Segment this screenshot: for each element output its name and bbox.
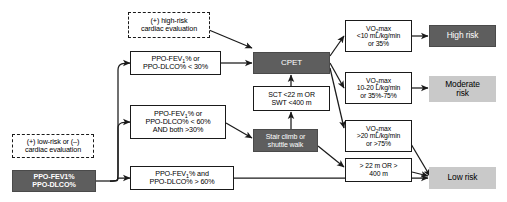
node-line: 400 m	[369, 170, 387, 178]
ppo-under-30: PPO-FEV1% or PPO-DLCO% < 30%	[130, 51, 221, 75]
node-line: VO2max	[366, 125, 391, 133]
edge-cardiac-to-cpet	[209, 30, 252, 48]
node-line: cardiac evaluation	[141, 25, 197, 33]
edge-cpet-to-vo2mid	[330, 63, 344, 88]
stair-climb-shuttle-walk: Stair climb or shuttle walk	[253, 129, 318, 152]
outcome-high-risk: High risk	[429, 25, 496, 47]
edge-under60-to-stair	[226, 123, 252, 138]
node-line: Low risk	[448, 173, 478, 182]
outcome-low-risk: Low risk	[429, 167, 496, 189]
flowchart-canvas: (+) high-risk cardiac evaluation PPO-FEV…	[0, 0, 507, 202]
edge-pass-to-low	[412, 172, 428, 176]
vo2max-high: VO2max >20 mL/kg/min or >75%	[345, 120, 412, 152]
vo2max-low: VO2max <10 mL/kg/min or 35%	[345, 20, 412, 52]
node-line: AND both >30%	[153, 126, 203, 134]
ppo-entry: PPO-FEV1% PPO-DLCO%	[12, 170, 96, 192]
sct-swt-pass: > 22 m OR > 400 m	[345, 158, 412, 182]
node-line: SWT <400 m	[272, 99, 312, 107]
node-line: or 35%	[368, 40, 389, 48]
node-line: risk	[456, 89, 469, 98]
node-line: PPO-DLCO% > 60%	[149, 178, 214, 186]
node-line: or 35%-75%	[360, 92, 396, 100]
node-line: SCT <22 m OR	[268, 91, 315, 99]
edge-cpet-to-vo2low	[330, 36, 344, 56]
sct-swt-threshold: SCT <22 m OR SWT <400 m	[253, 86, 330, 111]
edge-entry-to-under30	[110, 63, 130, 181]
node-line: VO2max	[366, 25, 391, 33]
edge-stair-to-pass	[318, 146, 344, 167]
edge-cpet-to-vo2high	[330, 68, 344, 128]
node-line: shuttle walk	[268, 141, 303, 149]
node-line: > 22 m OR >	[360, 162, 398, 170]
node-line: >20 mL/kg/min	[357, 132, 400, 140]
node-line: VO2max	[366, 77, 391, 85]
node-line: or >75%	[366, 140, 391, 148]
node-line: <10 mL/kg/min	[357, 32, 400, 40]
ppo-over-60: PPO-FEV1% and PPO-DLCO% > 60%	[130, 166, 234, 190]
ppo-under-60: PPO-FEV1% or PPO-DLCO% < 60% AND both >3…	[130, 105, 226, 139]
high-risk-cardiac-evaluation: (+) high-risk cardiac evaluation	[128, 12, 210, 38]
node-line: 10-20 L/kg/min	[357, 84, 401, 92]
node-line: cardiac evaluation	[25, 146, 81, 154]
node-line: High risk	[447, 31, 479, 40]
edge-entry-to-over60	[110, 178, 130, 181]
node-line: Stair climb or	[266, 133, 305, 141]
low-risk-cardiac-evaluation: (+) low-risk or (–) cardiac evaluation	[12, 134, 94, 158]
node-line: PPO-DLCO% < 30%	[143, 63, 208, 71]
outcome-moderate-risk: Moderate risk	[429, 76, 496, 102]
node-line: CPET	[281, 59, 302, 68]
edge-entry-to-under60	[110, 122, 130, 181]
cpet: CPET	[253, 52, 330, 74]
vo2max-mid: VO2max 10-20 L/kg/min or 35%-75%	[345, 72, 412, 104]
node-line: PPO-DLCO%	[32, 181, 75, 189]
